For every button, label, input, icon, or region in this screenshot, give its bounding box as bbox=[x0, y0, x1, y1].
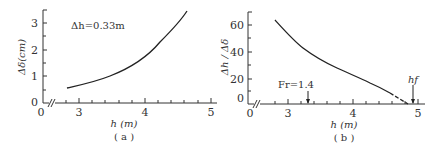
x-tick-label: 3 bbox=[76, 106, 83, 119]
y-tick-label: 2 bbox=[31, 44, 38, 57]
x-tick-label: 0 bbox=[247, 107, 254, 120]
x-ticks-b bbox=[275, 99, 418, 104]
y-tick-label: 1 bbox=[31, 70, 38, 83]
panel-label-a: ( a ) bbox=[114, 131, 134, 142]
figure: 3 2 1 0 0 3 4 5 Δh=0.33m Δδ(cm) h (m) ( … bbox=[0, 0, 439, 151]
x-tick-label: 5 bbox=[415, 107, 422, 120]
chart-a: 3 2 1 0 0 3 4 5 Δh=0.33m Δδ(cm) h (m) ( … bbox=[16, 10, 217, 142]
axis-break-icon bbox=[48, 99, 55, 107]
panel-label-b: ( b ) bbox=[334, 132, 355, 143]
hf-annotation: hf bbox=[408, 74, 420, 85]
x-tick-label: 0 bbox=[38, 106, 45, 119]
y-tick-label: 40 bbox=[230, 46, 244, 59]
chart-b: 60 40 20 0 0 3 4 5 Fr=1.4 hf Δh / Δδ h (… bbox=[219, 12, 425, 143]
delta-h-annotation: Δh=0.33m bbox=[71, 20, 125, 31]
y-axis-title-b: Δh / Δδ bbox=[219, 39, 230, 77]
fr-annotation: Fr=1.4 bbox=[278, 79, 314, 90]
x-ticks-a bbox=[66, 98, 211, 103]
y-tick-label: 60 bbox=[230, 19, 244, 32]
y-ticks-b bbox=[248, 25, 252, 91]
y-ticks-a bbox=[43, 23, 47, 90]
x-axis-title-a: h (m) bbox=[111, 118, 138, 129]
y-tick-label: 20 bbox=[230, 73, 244, 86]
x-tick-label: 3 bbox=[285, 107, 292, 120]
y-tick-label: 0 bbox=[237, 92, 244, 105]
x-axis-title-b: h (m) bbox=[331, 119, 358, 130]
x-tick-label: 4 bbox=[142, 106, 149, 119]
x-tick-label: 5 bbox=[208, 106, 215, 119]
y-tick-label: 3 bbox=[31, 17, 38, 30]
y-axis-title-a: Δδ(cm) bbox=[16, 39, 27, 76]
axis-break-icon bbox=[253, 100, 260, 108]
